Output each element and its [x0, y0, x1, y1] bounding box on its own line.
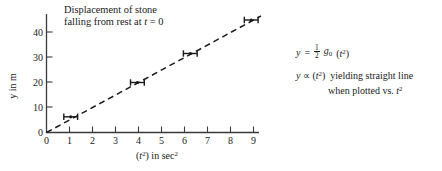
y-tick-label: 10	[33, 102, 43, 113]
x-tick-label: 8	[228, 135, 233, 146]
x-axis-tick-labels: 0 1 2 3 4 5 6 7 8 9	[44, 135, 256, 146]
x-axis-ticks	[70, 127, 254, 133]
equation-2-paren-close: )	[322, 70, 325, 81]
equation-1-g-subscript: 0	[329, 50, 332, 57]
y-tick-label: 40	[33, 27, 43, 38]
x-axis-title-close: ) in sec	[146, 150, 175, 162]
x-tick-label: 4	[136, 135, 141, 146]
fraction-numerator: 1	[314, 44, 320, 51]
x-tick-label: 3	[113, 135, 118, 146]
data-point	[189, 52, 192, 55]
y-axis-tick-labels: 40 30 20 10 0	[33, 27, 43, 138]
equation-2-text: yielding straight line	[330, 70, 413, 81]
y-tick-label: 20	[33, 77, 43, 88]
x-tick-label: 9	[251, 135, 256, 146]
data-point-group	[64, 17, 258, 120]
equation-1-y: y	[296, 46, 300, 59]
y-tick-label: 30	[33, 52, 43, 63]
x-tick-label: 1	[67, 135, 72, 146]
proportional-to-icon: ∝	[303, 70, 310, 81]
equation-proportionality: y ∝ (t2) yielding straight line when plo…	[296, 67, 413, 97]
best-fit-line	[47, 16, 262, 133]
equation-2-line-1: y ∝ (t2) yielding straight line	[296, 67, 413, 82]
x-tick-label: 0	[44, 135, 49, 146]
equation-2-y: y	[296, 70, 300, 81]
x-axis-title-sec-sup: 2	[174, 150, 178, 157]
plot-title: Displacement of stone falling from rest …	[64, 4, 163, 29]
fraction-one-half: 1 2	[314, 44, 320, 60]
plot-title-line-1: Displacement of stone	[64, 4, 163, 16]
data-point	[69, 115, 72, 118]
plot-title-line-2: falling from rest at t = 0	[64, 16, 163, 28]
plot-title-line-2-text: falling from rest at	[64, 16, 144, 27]
data-point	[136, 81, 139, 84]
y-axis-title: y in m	[7, 73, 18, 99]
equation-2-line-2-text: when plotted vs.	[328, 85, 396, 96]
figure-container: Displacement of stone falling from rest …	[0, 0, 442, 171]
svg-text:(t2) in sec2: (t2) in sec2	[136, 150, 178, 163]
y-axis-ticks	[47, 32, 53, 107]
plot-title-line-2-value: = 0	[147, 16, 163, 27]
equation-1-equals: =	[304, 46, 310, 59]
x-tick-label: 6	[182, 135, 187, 146]
fraction-denominator: 2	[314, 51, 320, 59]
y-tick-label: 0	[38, 127, 43, 138]
data-point	[250, 18, 253, 21]
equation-1-tsquared: (t2)	[336, 45, 349, 60]
x-tick-label: 5	[159, 135, 164, 146]
equation-displacement: y = 1 2 g0 (t2)	[296, 44, 413, 60]
x-tick-label: 7	[205, 135, 210, 146]
equation-2-line-2-exponent: 2	[399, 85, 402, 92]
equation-1-paren-close: )	[346, 48, 349, 59]
equation-1-g-term: g0	[324, 44, 332, 60]
x-axis-title: (t2) in sec2	[136, 150, 178, 163]
annotation-block: y = 1 2 g0 (t2) y ∝ (t2) yielding straig…	[296, 44, 413, 97]
x-tick-label: 2	[90, 135, 95, 146]
equation-2-line-2: when plotted vs. t2	[296, 82, 413, 97]
